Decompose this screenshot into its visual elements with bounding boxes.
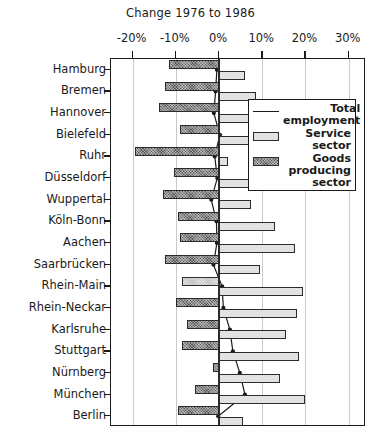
y-tick-label-m-nchen: München [54,387,106,401]
goods-swatch-icon [253,157,279,166]
y-tick-label-berlin: Berlin [73,408,106,422]
y-axis-tick [104,155,110,156]
bar-service-saarbr-cken [219,265,260,274]
y-axis-tick [104,242,110,243]
y-axis-tick [104,264,110,265]
bar-service-rhein-main [219,287,303,296]
y-tick-label-hannover: Hannover [50,105,106,119]
x-tick-label: 30% [335,31,361,45]
y-axis-tick [104,177,110,178]
y-tick-label-k-ln-bonn: Köln-Bonn [48,213,106,227]
y-tick-label-d-sseldorf: Düsseldorf [44,170,106,184]
chart-container: Change 1976 to 1986 -20%-10%0%10%20%30% … [0,0,381,448]
y-axis-tick [104,69,110,70]
y-axis-tick [104,220,110,221]
bar-goods-bremen [165,82,219,91]
y-tick-label-karlsruhe: Karlsruhe [51,322,106,336]
y-axis-category-labels: HamburgBremenHannoverBielefeldRuhrDüssel… [0,58,106,426]
y-axis-tick [104,372,110,373]
bar-service-karlsruhe [219,330,286,339]
bar-goods-karlsruhe [187,320,219,329]
y-tick-label-hamburg: Hamburg [53,62,106,76]
x-axis-tick [304,51,305,58]
line-swatch-icon [253,111,279,112]
bar-service-wuppertal [219,200,251,209]
y-tick-label-wuppertal: Wuppertal [47,192,106,206]
x-tick-label: -20% [117,31,147,45]
x-tick-label: -10% [160,31,190,45]
y-axis-tick [104,285,110,286]
zero-axis-line [218,59,219,425]
y-tick-label-saarbr-cken: Saarbrücken [34,257,106,271]
bar-goods-m-nchen [195,385,219,394]
y-axis-tick [104,199,110,200]
bar-goods-wuppertal [163,190,219,199]
bar-service-n-rnberg [219,374,280,383]
x-axis-tick [132,51,133,58]
y-tick-label-stuttgart: Stuttgart [54,343,106,357]
gridline [133,59,134,425]
bar-goods-hamburg [169,60,219,69]
chart-title: Change 1976 to 1986 [0,6,381,20]
bar-goods-k-ln-bonn [178,212,219,221]
x-tick-label: 10% [248,31,274,45]
y-tick-label-n-rnberg: Nürnberg [52,365,106,379]
legend-item-service-sector: Service sector [253,128,351,152]
bar-service-hamburg [219,71,245,80]
bar-goods-rhein-main [182,277,219,286]
gridline [176,59,177,425]
legend-item-total-employment: Total employment [253,103,351,127]
y-axis-tick [104,329,110,330]
legend-item-goods-sector: Goods producing sector [253,153,351,189]
legend-label-total-employment: Total employment [283,103,360,127]
bar-service-ruhr [219,157,228,166]
bar-service-k-ln-bonn [219,222,275,231]
y-tick-label-ruhr: Ruhr [79,148,106,162]
y-axis-tick [104,307,110,308]
bar-goods-ruhr [135,147,219,156]
bar-goods-d-sseldorf [174,168,219,177]
y-axis-tick [104,350,110,351]
x-axis-tick [175,51,176,58]
legend-label-service-sector: Service sector [283,128,351,152]
bar-service-stuttgart [219,352,299,361]
y-axis-tick [104,394,110,395]
chart-legend: Total employment Service sector Goods pr… [248,99,356,191]
y-axis-tick [104,134,110,135]
y-tick-label-rhein-main: Rhein-Main [42,278,106,292]
x-axis-tick [261,51,262,58]
service-swatch-icon [253,132,279,141]
y-axis-tick [104,90,110,91]
x-tick-label: 20% [292,31,318,45]
bar-goods-berlin [178,406,219,415]
bar-goods-saarbr-cken [165,255,219,264]
bar-service-rhein-neckar [219,309,297,318]
x-axis-tick [348,51,349,58]
x-tick-label: 0% [209,31,227,45]
bar-service-aachen [219,244,295,253]
x-axis-tick-labels: -20%-10%0%10%20%30% [0,31,381,47]
y-tick-label-aachen: Aachen [63,235,106,249]
legend-label-goods-sector: Goods producing sector [283,153,351,189]
y-axis-tick [104,112,110,113]
y-tick-label-rhein-neckar: Rhein-Neckar [29,300,106,314]
bar-goods-stuttgart [182,341,219,350]
bar-goods-rhein-neckar [176,298,219,307]
bar-goods-hannover [159,103,220,112]
bar-service-berlin [219,417,243,426]
bar-goods-aachen [180,233,219,242]
y-tick-label-bielefeld: Bielefeld [56,127,106,141]
y-tick-label-bremen: Bremen [61,83,106,97]
y-axis-tick [104,415,110,416]
bar-service-m-nchen [219,395,305,404]
bar-goods-bielefeld [180,125,219,134]
x-axis-tick [218,51,219,58]
